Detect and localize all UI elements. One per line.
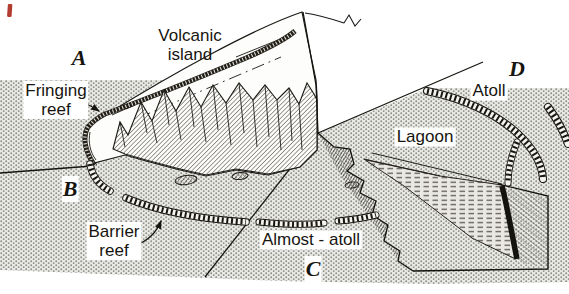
fringing-reef-label: Fringing reef — [23, 81, 88, 119]
stage-label-b: B — [62, 176, 79, 202]
stage-label-a: A — [71, 45, 88, 71]
atoll-label: Atoll — [470, 81, 507, 100]
stage-label-c: C — [305, 256, 322, 282]
coral-reef-formation-diagram: A B C D Volcanic island Fringing reef Ba… — [0, 0, 569, 294]
stage-label-d: D — [508, 56, 526, 82]
red-tick-mark — [7, 4, 12, 17]
almost-atoll-ring-segment-1 — [259, 222, 324, 224]
almost-atoll-label: Almost - atoll — [260, 230, 362, 249]
lagoon-label: Lagoon — [395, 127, 456, 146]
barrier-reef-label: Barrier reef — [86, 222, 141, 260]
volcanic-island-label: Volcanic island — [156, 26, 223, 64]
